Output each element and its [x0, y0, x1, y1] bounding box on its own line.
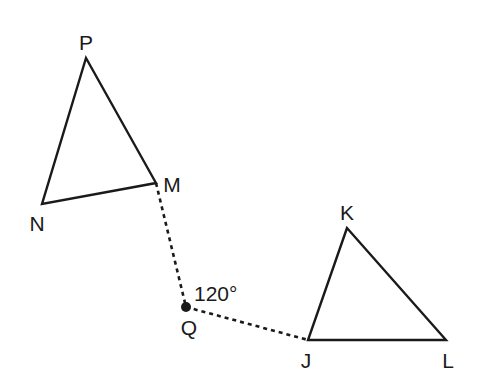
vertex-label-p: P: [79, 31, 93, 54]
vertex-label-m: M: [163, 173, 181, 196]
triangle-kjl: [308, 228, 446, 340]
diagram-canvas: P M N K J L Q 120°: [0, 0, 479, 392]
vertex-label-n: N: [29, 212, 44, 235]
vertex-label-j: J: [301, 349, 312, 372]
dashed-segment-mq: [156, 183, 186, 307]
dashed-segment-qj: [186, 307, 308, 340]
center-point-q: [181, 302, 191, 312]
rotation-diagram: P M N K J L Q 120°: [0, 0, 479, 392]
vertex-label-l: L: [442, 349, 454, 372]
rotation-angle-label: 120°: [194, 282, 237, 305]
vertex-label-k: K: [340, 201, 354, 224]
triangle-pmn: [42, 58, 156, 204]
center-label-q: Q: [181, 316, 197, 339]
